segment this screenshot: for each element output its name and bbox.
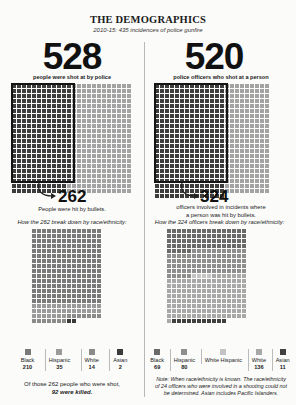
waffle-cell — [250, 174, 254, 178]
waffle-cell — [82, 229, 86, 233]
waffle-cell — [92, 244, 96, 248]
waffle-cell — [217, 309, 221, 313]
waffle-cell — [77, 144, 81, 148]
waffle-cell — [240, 89, 244, 93]
waffle-cell — [187, 269, 191, 273]
waffle-cell — [220, 99, 224, 103]
waffle-cell — [127, 154, 131, 158]
waffle-cell — [67, 129, 71, 133]
waffle-cell — [127, 104, 131, 108]
waffle-cell — [42, 304, 46, 308]
waffle-cell — [245, 119, 249, 123]
waffle-cell — [77, 149, 81, 153]
waffle-cell — [112, 84, 116, 88]
waffle-cell — [170, 184, 174, 188]
waffle-cell — [92, 274, 96, 278]
waffle-cell — [127, 109, 131, 113]
waffle-cell — [72, 254, 76, 258]
waffle-cell — [197, 284, 201, 288]
waffle-cell — [17, 179, 21, 183]
waffle-cell — [102, 189, 106, 193]
waffle-officers — [155, 84, 269, 198]
waffle-cell — [97, 314, 101, 318]
waffle-cell — [182, 304, 186, 308]
page-title: THE DEMOGRAPHICS — [0, 14, 296, 25]
waffle-cell — [72, 104, 76, 108]
waffle-cell — [190, 134, 194, 138]
waffle-cell — [97, 289, 101, 293]
waffle-cell — [62, 119, 66, 123]
waffle-cell — [52, 89, 56, 93]
waffle-cell — [220, 109, 224, 113]
waffle-cell — [102, 169, 106, 173]
waffle-cell — [227, 294, 231, 298]
waffle-cell — [240, 104, 244, 108]
waffle-cell — [117, 144, 121, 148]
waffle-cell — [190, 119, 194, 123]
waffle-cell — [220, 154, 224, 158]
waffle-cell — [92, 94, 96, 98]
waffle-cell — [255, 139, 259, 143]
waffle-cell — [17, 154, 21, 158]
waffle-cell — [205, 159, 209, 163]
waffle-cell — [170, 134, 174, 138]
waffle-cell — [260, 134, 264, 138]
waffle-cell — [87, 129, 91, 133]
waffle-cell — [215, 144, 219, 148]
waffle-cell — [160, 114, 164, 118]
waffle-cell — [240, 144, 244, 148]
waffle-cell — [47, 109, 51, 113]
waffle-cell — [170, 124, 174, 128]
waffle-cell — [87, 284, 91, 288]
waffle-cell — [260, 189, 264, 193]
waffle-cell — [92, 284, 96, 288]
waffle-cell — [127, 124, 131, 128]
waffle-cell — [210, 94, 214, 98]
waffle-cell — [155, 174, 159, 178]
waffle-cell — [172, 259, 176, 263]
waffle-cell — [155, 129, 159, 133]
waffle-cell — [250, 104, 254, 108]
waffle-cell — [67, 314, 71, 318]
waffle-cell — [62, 144, 66, 148]
waffle-cell — [205, 99, 209, 103]
waffle-cell — [72, 119, 76, 123]
waffle-cell — [67, 239, 71, 243]
waffle-cell — [227, 234, 231, 238]
waffle-cell — [82, 164, 86, 168]
waffle-cell — [240, 139, 244, 143]
waffle-cell — [52, 274, 56, 278]
waffle-cell — [22, 149, 26, 153]
waffle-cell — [57, 289, 61, 293]
waffle-cell — [37, 109, 41, 113]
waffle-cell — [202, 234, 206, 238]
waffle-cell — [92, 84, 96, 88]
waffle-cell — [47, 239, 51, 243]
waffle-cell — [175, 164, 179, 168]
waffle-cell — [177, 299, 181, 303]
waffle-cell — [67, 264, 71, 268]
waffle-cell — [155, 114, 159, 118]
waffle-cell — [17, 89, 21, 93]
waffle-cell — [227, 249, 231, 253]
waffle-cell — [97, 114, 101, 118]
waffle-cell — [205, 144, 209, 148]
waffle-cell — [32, 129, 36, 133]
waffle-cell — [255, 94, 259, 98]
waffle-cell — [230, 89, 234, 93]
waffle-cell — [122, 109, 126, 113]
waffle-cell — [97, 149, 101, 153]
waffle-cell — [52, 109, 56, 113]
waffle-cell — [207, 234, 211, 238]
waffle-cell — [260, 169, 264, 173]
waffle-cell — [12, 174, 16, 178]
waffle-cell — [37, 144, 41, 148]
waffle-cell — [87, 239, 91, 243]
waffle-cell — [37, 309, 41, 313]
waffle-cell — [112, 184, 116, 188]
waffle-cell — [217, 289, 221, 293]
waffle-cell — [192, 274, 196, 278]
waffle-cell — [180, 154, 184, 158]
waffle-cell — [67, 284, 71, 288]
waffle-cell — [27, 109, 31, 113]
